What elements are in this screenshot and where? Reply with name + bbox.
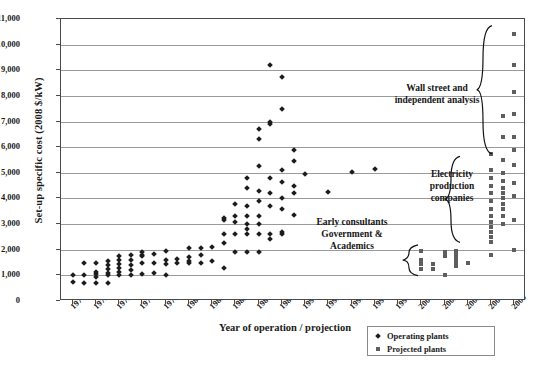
data-point	[501, 214, 505, 218]
data-point	[198, 252, 204, 258]
x-tick-mark	[397, 300, 398, 304]
data-point	[256, 221, 262, 227]
data-point	[93, 280, 99, 286]
data-point	[501, 186, 505, 190]
data-point	[244, 185, 250, 191]
data-point	[501, 202, 505, 206]
data-point	[512, 90, 516, 94]
data-point	[163, 273, 169, 279]
data-point	[267, 62, 273, 68]
data-point	[512, 194, 516, 198]
data-point	[267, 190, 273, 196]
x-tick-mark	[444, 300, 445, 304]
data-point	[489, 168, 493, 172]
data-point	[151, 260, 157, 266]
y-tick-mark	[56, 300, 60, 301]
legend-label-operating-plants: Operating plants	[387, 331, 449, 341]
y-tick-label: 8,000	[0, 90, 20, 100]
data-point	[512, 112, 516, 116]
data-point	[512, 163, 516, 167]
data-point	[501, 179, 505, 183]
data-point	[501, 207, 505, 211]
data-point	[489, 220, 493, 224]
data-point	[279, 74, 285, 80]
data-point	[501, 114, 505, 118]
x-tick-mark	[513, 300, 514, 304]
x-tick-mark	[141, 300, 142, 304]
data-point	[489, 199, 493, 203]
legend-item-projected-plants: Projected plants	[376, 343, 494, 354]
data-point	[209, 258, 215, 264]
data-point	[443, 254, 447, 258]
data-point	[466, 261, 470, 265]
x-tick-mark	[165, 300, 166, 304]
y-tick-label: 1,000	[0, 269, 20, 279]
data-point	[279, 196, 285, 202]
data-point	[431, 262, 435, 266]
data-point	[489, 176, 493, 180]
x-tick-mark	[72, 300, 73, 304]
x-tick-mark	[118, 300, 119, 304]
data-point	[140, 260, 146, 266]
data-point	[244, 203, 250, 209]
data-point	[489, 253, 493, 257]
data-point	[174, 256, 180, 262]
data-point	[501, 191, 505, 195]
legend-item-operating-plants: Operating plants	[376, 330, 494, 341]
data-point	[244, 175, 250, 181]
y-tick-label: 2,000	[0, 244, 20, 254]
data-point	[198, 260, 204, 266]
x-tick-mark	[188, 300, 189, 304]
data-point	[244, 249, 250, 255]
data-point	[256, 137, 262, 143]
data-point	[512, 63, 516, 67]
data-point	[372, 166, 378, 172]
x-tick-mark	[281, 300, 282, 304]
data-point	[489, 240, 493, 244]
data-point	[512, 181, 516, 185]
data-point	[501, 222, 505, 226]
data-point	[489, 152, 493, 156]
data-point	[244, 232, 250, 238]
data-point	[501, 158, 505, 162]
data-point	[221, 265, 227, 271]
data-point	[419, 249, 423, 253]
data-point	[489, 235, 493, 239]
x-tick-mark	[490, 300, 491, 304]
plot-area	[60, 18, 525, 300]
data-point	[489, 214, 493, 218]
x-tick-mark	[467, 300, 468, 304]
data-point	[244, 221, 250, 227]
data-point	[489, 230, 493, 234]
data-point	[128, 273, 134, 279]
y-axis-title: Set-up specific cost (2008 $/kW)	[33, 16, 44, 286]
y-tick-label: 3,000	[0, 218, 20, 228]
data-point	[267, 175, 273, 181]
gridline	[61, 224, 524, 225]
annotation-early-consultants: Early consultants Government & Academics	[296, 216, 408, 252]
y-tick-label: 11,000	[0, 13, 20, 23]
y-tick-label: 6,000	[0, 141, 20, 151]
data-point	[81, 280, 87, 286]
annotation-electricity-production: Electricity production companies	[417, 168, 487, 204]
data-point	[291, 147, 297, 153]
x-tick-mark	[304, 300, 305, 304]
data-point	[489, 207, 493, 211]
data-point	[501, 171, 505, 175]
data-point	[512, 218, 516, 222]
data-point	[419, 262, 423, 266]
gridline	[61, 45, 524, 46]
x-tick-mark	[420, 300, 421, 304]
x-tick-mark	[374, 300, 375, 304]
data-point	[279, 206, 285, 212]
data-point	[233, 214, 239, 220]
data-point	[443, 273, 447, 277]
gridline	[61, 122, 524, 123]
data-point	[267, 237, 273, 243]
data-point	[489, 184, 493, 188]
data-point	[431, 267, 435, 271]
data-point	[256, 164, 262, 170]
x-tick-mark	[258, 300, 259, 304]
data-point	[454, 264, 458, 268]
data-point	[70, 279, 76, 285]
